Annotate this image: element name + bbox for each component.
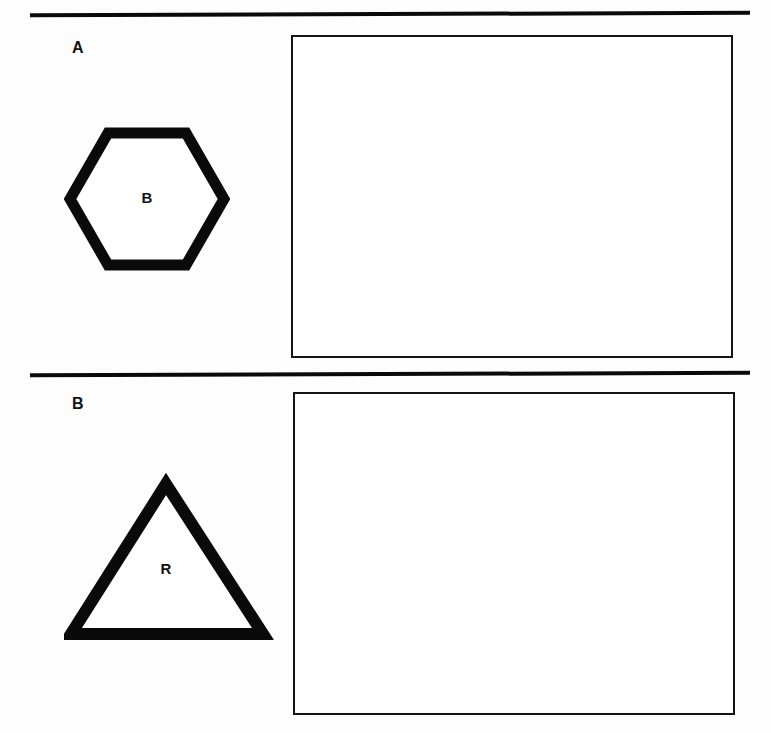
figure-page: A B B R	[0, 0, 771, 733]
hexagon-inner-letter: B	[132, 190, 162, 205]
triangle-inner-letter: R	[151, 561, 181, 576]
triangle-stimulus	[64, 470, 274, 644]
divider-middle-rule	[30, 371, 750, 377]
panel-b-label: B	[72, 396, 84, 412]
divider-top-rule	[30, 11, 750, 17]
triangle-icon	[64, 470, 274, 644]
answer-box-panel-a[interactable]	[291, 35, 733, 358]
panel-a-label: A	[72, 40, 84, 56]
answer-box-panel-b[interactable]	[293, 392, 735, 715]
